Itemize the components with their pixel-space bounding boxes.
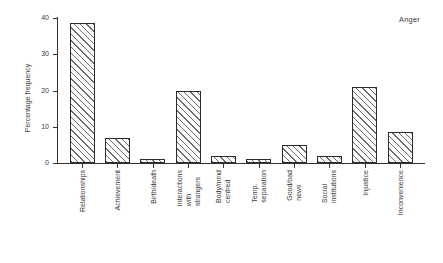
x-category-label: Interactions with strangers bbox=[175, 170, 202, 206]
x-axis-line bbox=[57, 163, 425, 164]
x-tick-mark bbox=[259, 163, 260, 168]
x-category-label: Temp. separation bbox=[250, 170, 268, 203]
x-category-label: Birth/death bbox=[148, 170, 157, 204]
bar-8 bbox=[317, 156, 342, 163]
bar-10 bbox=[388, 132, 413, 163]
x-tick-mark bbox=[400, 163, 401, 168]
y-tick-mark bbox=[53, 54, 57, 55]
y-tick-mark bbox=[53, 91, 57, 92]
y-tick-mark bbox=[53, 163, 57, 164]
bar-1 bbox=[70, 23, 95, 163]
y-tick-label: 10 bbox=[21, 123, 49, 131]
anger-bar-chart-figure: Anger Percentage frequency 010203040 Rel… bbox=[0, 0, 443, 263]
x-category-label: Injustice bbox=[360, 170, 369, 196]
x-category-label: Body/mind centred bbox=[214, 170, 232, 203]
x-tick-mark bbox=[365, 163, 366, 168]
x-tick-mark bbox=[294, 163, 295, 168]
x-category-label: Relationships bbox=[78, 170, 87, 212]
bar-2 bbox=[105, 138, 130, 163]
x-tick-mark bbox=[329, 163, 330, 168]
bar-5 bbox=[211, 156, 236, 163]
y-tick-mark bbox=[53, 127, 57, 128]
x-category-label: Social institutions bbox=[320, 170, 338, 203]
x-category-label: Inconvenience bbox=[396, 170, 405, 215]
y-tick-label: 40 bbox=[21, 14, 49, 22]
y-tick-label: 20 bbox=[21, 87, 49, 95]
x-category-label: Good/bad news bbox=[285, 170, 303, 201]
y-tick-label: 0 bbox=[21, 159, 49, 167]
y-tick-label: 30 bbox=[21, 50, 49, 58]
bar-4 bbox=[176, 91, 201, 164]
x-category-label: Achievement bbox=[113, 170, 122, 210]
y-axis-line bbox=[57, 17, 58, 163]
x-tick-mark bbox=[82, 163, 83, 168]
x-tick-mark bbox=[223, 163, 224, 168]
x-tick-mark bbox=[117, 163, 118, 168]
y-tick-mark bbox=[53, 18, 57, 19]
bar-9 bbox=[352, 87, 377, 163]
x-tick-mark bbox=[188, 163, 189, 168]
chart-title: Anger bbox=[399, 15, 420, 24]
bar-7 bbox=[282, 145, 307, 163]
x-tick-mark bbox=[153, 163, 154, 168]
